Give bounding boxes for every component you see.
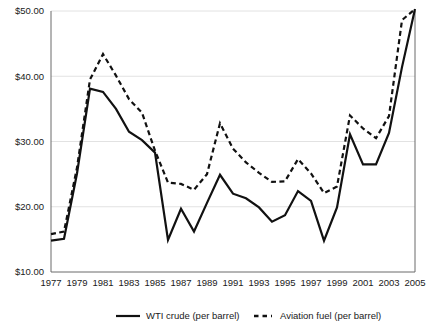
price-line-chart: $10.00$20.00$30.00$40.00$50.00 197719791… [0,0,434,334]
x-axis-tick-label: 1983 [118,277,139,288]
x-axis-tick-label: 1993 [248,277,269,288]
x-axis-tick-label: 1991 [222,277,243,288]
legend-label-aviation-fuel: Aviation fuel (per barrel) [280,310,381,321]
x-axis-tick-label: 1979 [66,277,87,288]
y-axis-tick-label: $10.00 [15,266,44,277]
x-axis-tick-label: 1999 [326,277,347,288]
x-axis-tick-label: 1985 [144,277,165,288]
y-axis-tick-label: $50.00 [15,5,44,16]
y-axis-tick-label: $20.00 [15,201,44,212]
x-axis-tick-label: 1977 [40,277,61,288]
x-axis-tick-label: 1989 [196,277,217,288]
y-axis-tick-label: $30.00 [15,136,44,147]
x-axis-tick-labels: 1977197919811983198519871989199119931995… [40,277,425,288]
x-axis-tick-label: 2003 [378,277,399,288]
x-axis-tick-label: 1997 [300,277,321,288]
x-axis-tick-label: 2001 [352,277,373,288]
x-axis-tick-label: 1987 [170,277,191,288]
x-axis-tick-label: 1995 [274,277,295,288]
y-axis-tick-label: $40.00 [15,71,44,82]
chart-container: $10.00$20.00$30.00$40.00$50.00 197719791… [0,0,434,334]
x-axis-tick-label: 2005 [404,277,425,288]
x-axis-tick-label: 1981 [92,277,113,288]
legend-label-wti-crude: WTI crude (per barrel) [146,310,239,321]
